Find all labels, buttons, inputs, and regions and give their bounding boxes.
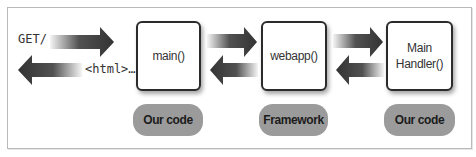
main-function-box: main() [136, 21, 201, 91]
return-arrow-handler-to-webapp-icon [334, 54, 386, 86]
main-handler-box: Main Handler() [386, 21, 453, 91]
return-arrow-webapp-to-main-icon [208, 54, 260, 86]
box-label-line2: Handler() [396, 56, 443, 72]
webapp-function-box: webapp() [261, 21, 327, 91]
our-code-pill-1: Our code [133, 104, 203, 136]
response-arrow-icon [16, 54, 84, 86]
framework-pill: Framework [259, 104, 328, 136]
request-label: GET/ [18, 32, 47, 46]
response-label: <html>… [85, 62, 136, 76]
box-label: webapp() [270, 48, 318, 64]
our-code-pill-2: Our code [384, 104, 455, 136]
box-label: main() [152, 48, 184, 64]
box-label-line1: Main [396, 40, 443, 56]
